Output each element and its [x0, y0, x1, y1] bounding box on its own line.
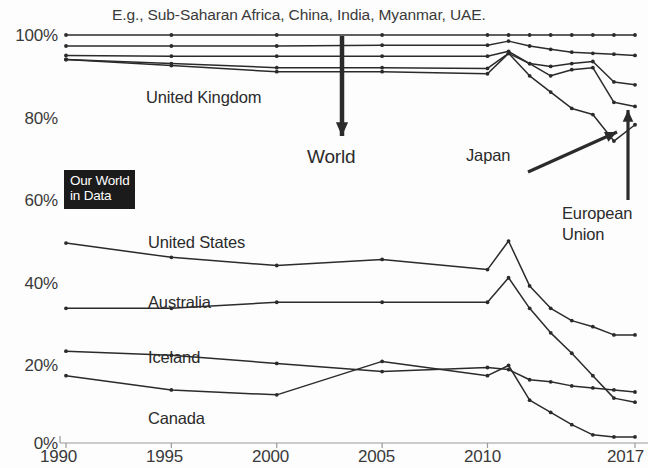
x-tick-2005: 2005: [358, 447, 395, 467]
japan-annotation-arrow: [528, 132, 617, 172]
y-tick-100: 100%: [0, 26, 58, 46]
series-label-japan: Japan: [466, 146, 510, 165]
series-label-united-kingdom: United Kingdom: [146, 88, 261, 107]
logo-line-2: in Data: [70, 189, 129, 204]
chart-plot-area: [0, 0, 648, 468]
european-union-annotation-arrow: [623, 110, 634, 200]
world-annotation-arrow: [336, 36, 348, 136]
series-label-united-states: United States: [148, 233, 245, 252]
series-label-european-union: European Union: [562, 203, 632, 244]
series-label-iceland: Iceland: [148, 348, 200, 367]
x-tick-2010: 2010: [464, 447, 501, 467]
series-label-australia: Australia: [148, 293, 211, 312]
logo-line-1: Our World: [70, 174, 129, 189]
annotation-arrows: [336, 36, 633, 200]
eu-label-line1: European: [562, 203, 632, 224]
y-tick-40: 40%: [0, 274, 58, 294]
x-tick-1990: 1990: [40, 447, 77, 467]
x-tick-2017: 2017: [607, 447, 644, 467]
series-world: [64, 33, 637, 37]
y-tick-60: 60%: [0, 191, 58, 211]
x-tick-2000: 2000: [252, 447, 289, 467]
chart-container: 100% 80% 60% 40% 20% 0% 1990 1995 2000 2…: [0, 0, 648, 468]
top-note-annotation: E.g., Sub-Saharan Africa, China, India, …: [112, 6, 486, 24]
series-label-world: World: [307, 146, 356, 168]
x-tick-1995: 1995: [146, 447, 183, 467]
eu-label-line2: Union: [562, 224, 632, 245]
y-tick-20: 20%: [0, 356, 58, 376]
our-world-in-data-logo: Our World in Data: [64, 170, 135, 209]
series-label-canada: Canada: [148, 409, 205, 428]
series-united-states: [64, 239, 637, 337]
series-sub-saharan-africa-group: [64, 39, 637, 57]
y-tick-80: 80%: [0, 109, 58, 129]
